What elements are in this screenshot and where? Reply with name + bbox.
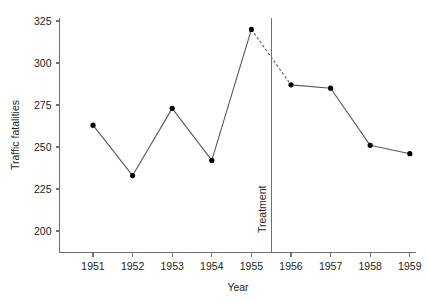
chart-background [0,0,427,302]
y-tick-label-300: 300 [34,57,52,69]
x-tick-label-1954: 1954 [200,260,224,272]
y-tick-label-225: 225 [34,183,52,195]
line-chart: 200225250275300325 195119521953195419551… [0,0,427,302]
data-point-1951 [90,123,95,128]
chart-container: 200225250275300325 195119521953195419551… [0,0,427,302]
data-point-1954 [209,158,214,163]
x-tick-label-1957: 1957 [319,260,343,272]
x-tick-label-1959: 1959 [398,260,422,272]
data-point-1953 [170,106,175,111]
data-point-1955 [249,27,254,32]
x-tick-label-1955: 1955 [240,260,264,272]
data-point-1959 [407,151,412,156]
data-point-1958 [368,143,373,148]
data-point-1952 [130,173,135,178]
y-axis-title: Traffic fatalities [9,100,21,170]
y-tick-label-275: 275 [34,99,52,111]
x-tick-label-1958: 1958 [359,260,383,272]
y-tick-label-325: 325 [34,15,52,27]
data-point-1957 [328,86,333,91]
x-axis: 195119521953195419551956195719581959 [81,253,421,272]
x-tick-label-1956: 1956 [279,260,303,272]
x-tick-label-1952: 1952 [121,260,145,272]
x-tick-label-1953: 1953 [161,260,185,272]
data-point-1956 [288,82,293,87]
y-tick-label-250: 250 [34,141,52,153]
treatment-label: Treatment [256,185,268,233]
y-tick-label-200: 200 [34,225,52,237]
x-axis-title: Year [227,281,249,293]
x-tick-label-1951: 1951 [81,260,105,272]
